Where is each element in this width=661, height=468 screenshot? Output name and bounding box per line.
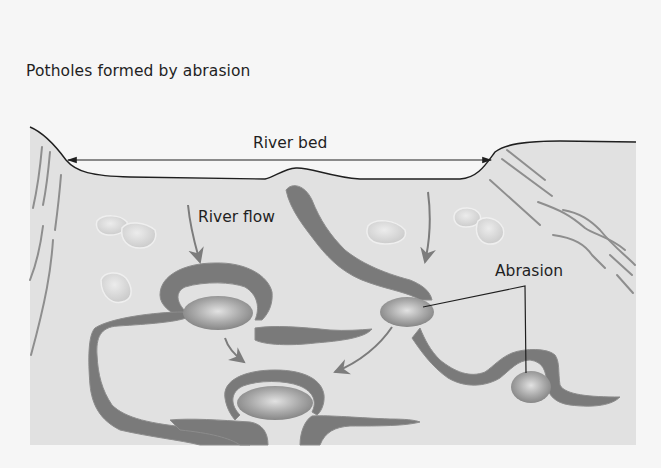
diagram-title: Potholes formed by abrasion: [26, 62, 250, 80]
potholes-diagram: Potholes formed by abrasion River bed Ri…: [0, 0, 661, 468]
river-bed-label: River bed: [253, 134, 327, 152]
pothole-upper-left: [183, 296, 253, 330]
river-flow-label: River flow: [198, 208, 275, 226]
pothole-bottom: [237, 386, 313, 420]
abrasion-label: Abrasion: [495, 262, 563, 280]
pothole-middle: [380, 297, 434, 327]
pothole-right: [511, 371, 551, 403]
